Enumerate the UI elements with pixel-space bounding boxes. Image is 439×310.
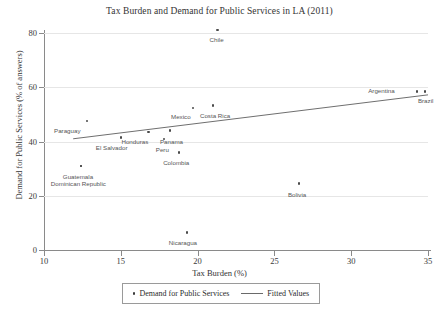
- chart-title: Tax Burden and Demand for Public Service…: [0, 6, 439, 16]
- legend-item-scatter: Demand for Public Services: [133, 289, 230, 298]
- y-tick-label: 40: [11, 137, 37, 147]
- scatter-point-label: Brazil: [418, 97, 433, 104]
- y-axis-title: Demand for Public Services (% of answers…: [14, 10, 24, 240]
- y-tick-label: 60: [11, 82, 37, 92]
- scatter-point-label: Peru: [156, 146, 169, 153]
- scatter-point-label: Bolivia: [288, 191, 306, 198]
- x-tick-label: 20: [183, 256, 213, 266]
- scatter-point: [86, 120, 88, 122]
- scatter-point: [186, 231, 188, 233]
- scatter-point: [147, 131, 149, 133]
- legend-label-scatter: Demand for Public Services: [139, 289, 229, 298]
- scatter-point: [163, 138, 165, 140]
- y-tick: [39, 196, 44, 197]
- scatter-point-label: Costa Rica: [200, 112, 230, 119]
- y-tick-label: 20: [11, 191, 37, 201]
- scatter-point: [216, 29, 218, 31]
- x-tick-label: 25: [259, 256, 289, 266]
- gridline: [44, 33, 428, 34]
- scatter-point: [80, 165, 82, 167]
- scatter-point-label: Colombia: [163, 159, 189, 166]
- scatter-point: [424, 90, 426, 92]
- fitted-values-line: [0, 0, 439, 310]
- y-tick: [39, 87, 44, 88]
- scatter-point: [120, 136, 122, 138]
- x-axis-title: Tax Burden (%): [0, 268, 439, 278]
- gridline: [44, 142, 428, 143]
- scatter-marker-icon: [133, 292, 136, 295]
- chart-legend: Demand for Public Services Fitted Values: [122, 283, 320, 304]
- y-tick-label: 0: [11, 245, 37, 255]
- scatter-point-label: Guatemala: [63, 173, 93, 180]
- x-tick-label: 35: [413, 256, 439, 266]
- chart-container: Tax Burden and Demand for Public Service…: [0, 0, 439, 310]
- y-tick: [39, 142, 44, 143]
- line-marker-icon: [241, 293, 263, 294]
- x-axis-line: [41, 250, 431, 251]
- scatter-point: [178, 151, 180, 153]
- scatter-point: [192, 107, 194, 109]
- y-tick: [39, 33, 44, 34]
- gridline: [44, 196, 428, 197]
- scatter-point-label: Dominican Republic: [51, 180, 106, 187]
- scatter-point-label: Paraguay: [54, 127, 81, 134]
- legend-item-line: Fitted Values: [241, 289, 309, 298]
- x-tick-label: 15: [106, 256, 136, 266]
- scatter-point: [416, 90, 418, 92]
- scatter-point: [169, 129, 171, 131]
- scatter-point-label: El Salvador: [96, 144, 128, 151]
- scatter-point: [212, 104, 214, 106]
- scatter-point-label: Argentina: [368, 87, 395, 94]
- legend-label-line: Fitted Values: [267, 289, 309, 298]
- x-tick-label: 30: [336, 256, 366, 266]
- scatter-point-label: Nicaragua: [169, 239, 197, 246]
- scatter-point-label: Mexico: [171, 113, 191, 120]
- scatter-point-label: Chile: [210, 36, 224, 43]
- x-tick-label: 10: [29, 256, 59, 266]
- scatter-point: [298, 182, 300, 184]
- y-tick-label: 80: [11, 28, 37, 38]
